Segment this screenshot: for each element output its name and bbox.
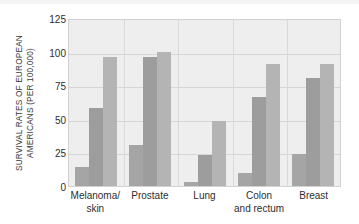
y-tick-label-125: 125 xyxy=(40,14,66,25)
bar-group-breast xyxy=(286,20,340,186)
bar-chart-figure: SURVIVAL RATES OF EUROPEAN AMERICANS (PE… xyxy=(0,0,359,224)
bar-breast-series-2 xyxy=(306,78,320,186)
y-axis-title: SURVIVAL RATES OF EUROPEAN AMERICANS (PE… xyxy=(14,18,36,188)
x-tick-label-colon-and-rectum-line-1: Colon xyxy=(232,190,287,203)
bar-colon-and-rectum-series-1 xyxy=(238,173,252,186)
x-tick-label-breast-line-1: Breast xyxy=(286,190,341,203)
x-tick-label-colon-and-rectum-line-2: and rectum xyxy=(232,203,287,216)
x-axis-tick-labels: Melanoma/ skin Prostate Lung Colon and r… xyxy=(68,190,341,215)
bar-prostate-series-2 xyxy=(143,57,157,186)
bar-group-colon-and-rectum xyxy=(232,20,286,186)
bar-group-prostate xyxy=(123,20,177,186)
y-tick-label-75: 75 xyxy=(40,81,66,92)
x-tick-label-breast: Breast xyxy=(286,190,341,215)
bar-prostate-series-3 xyxy=(157,52,171,186)
x-tick-label-melanoma-skin: Melanoma/ skin xyxy=(68,190,123,215)
bar-lung-series-2 xyxy=(198,155,212,186)
bar-group-lung xyxy=(177,20,231,186)
bar-prostate-series-1 xyxy=(129,145,143,186)
bar-melanoma-skin-series-1 xyxy=(75,167,89,186)
y-axis-tick-labels: 125 100 75 50 25 0 xyxy=(38,0,66,224)
y-tick-label-25: 25 xyxy=(40,148,66,159)
x-tick-label-lung-line-1: Lung xyxy=(177,190,232,203)
bar-breast-series-1 xyxy=(292,154,306,186)
bar-breast-series-3 xyxy=(320,64,334,186)
x-tick-label-lung: Lung xyxy=(177,190,232,215)
bar-melanoma-skin-series-2 xyxy=(89,108,103,186)
bar-colon-and-rectum-series-3 xyxy=(266,64,280,186)
x-tick-label-prostate: Prostate xyxy=(123,190,178,215)
bar-melanoma-skin-series-3 xyxy=(103,57,117,186)
x-tick-label-melanoma-skin-line-2: skin xyxy=(68,203,123,216)
bar-lung-series-3 xyxy=(212,121,226,186)
bar-colon-and-rectum-series-2 xyxy=(252,97,266,186)
x-tick-label-melanoma-skin-line-1: Melanoma/ xyxy=(68,190,123,203)
bar-group-melanoma-skin xyxy=(69,20,123,186)
bar-lung-series-1 xyxy=(184,182,198,186)
y-axis-title-line-1: SURVIVAL RATES OF EUROPEAN xyxy=(14,35,24,171)
plot-area xyxy=(68,19,341,187)
y-tick-label-100: 100 xyxy=(40,47,66,58)
y-tick-label-50: 50 xyxy=(40,114,66,125)
bar-series-container xyxy=(69,20,340,186)
y-axis-title-line-2: AMERICANS (PER 100,000) xyxy=(25,35,36,171)
x-tick-label-colon-and-rectum: Colon and rectum xyxy=(232,190,287,215)
x-tick-label-prostate-line-1: Prostate xyxy=(123,190,178,203)
y-tick-label-0: 0 xyxy=(40,182,66,193)
